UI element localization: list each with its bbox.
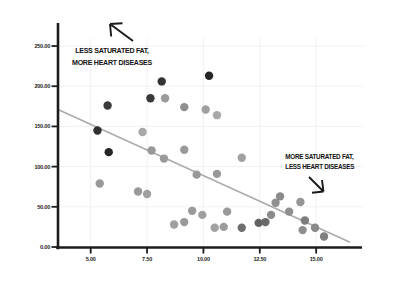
y-tick-label: 50.00 — [20, 204, 50, 210]
scatter-point — [220, 223, 228, 231]
annotation-less-fat: LESS SATURATED FAT, MORE HEART DISEASES — [70, 45, 154, 68]
y-tick-label: 200.00 — [20, 83, 50, 89]
scatter-point — [170, 220, 178, 228]
scatter-point — [213, 170, 221, 178]
scatter-point — [161, 94, 169, 102]
plot-area — [0, 0, 395, 286]
scatter-chart: 0.0050.00100.00150.00200.00250.005.007.5… — [0, 0, 395, 286]
scatter-point — [96, 179, 104, 187]
scatter-point — [201, 105, 209, 113]
annotation-less-fat-line2: MORE HEART DISEASES — [70, 57, 154, 69]
y-tick-label: 250.00 — [20, 43, 50, 49]
scatter-point — [146, 94, 154, 102]
x-tick-label: 5.00 — [77, 256, 105, 262]
scatter-point — [238, 154, 246, 162]
x-tick-label: 10.00 — [189, 256, 217, 262]
annotation-more-fat-line2: LESS HEART DISEASES — [285, 162, 348, 172]
scatter-point — [103, 101, 111, 109]
annotation-less-fat-line1: LESS SATURATED FAT, — [70, 45, 154, 57]
y-tick-label: 150.00 — [20, 123, 50, 129]
scatter-point — [134, 187, 142, 195]
scatter-point — [311, 224, 319, 232]
scatter-point — [261, 218, 269, 226]
x-tick-label: 7.50 — [133, 256, 161, 262]
scatter-point — [267, 211, 275, 219]
scatter-point — [298, 226, 306, 234]
scatter-point — [205, 72, 213, 80]
scatter-point — [238, 224, 246, 232]
scatter-point — [192, 170, 200, 178]
scatter-point — [180, 103, 188, 111]
y-tick-label: 0.00 — [20, 244, 50, 250]
scatter-point — [160, 154, 168, 162]
arrow-up-left-icon — [110, 23, 133, 41]
scatter-point — [143, 190, 151, 198]
scatter-point — [223, 207, 231, 215]
scatter-point — [147, 146, 155, 154]
scatter-point — [105, 148, 113, 156]
scatter-point — [158, 77, 166, 85]
y-tick-label: 100.00 — [20, 164, 50, 170]
scatter-point — [180, 146, 188, 154]
scatter-point — [211, 224, 219, 232]
scatter-point — [198, 211, 206, 219]
scatter-point — [296, 198, 304, 206]
scatter-point — [180, 218, 188, 226]
annotation-more-fat-line1: MORE SATURATED FAT, — [285, 152, 348, 162]
scatter-point — [213, 111, 221, 119]
scatter-point — [93, 126, 101, 134]
x-tick-label: 12.50 — [246, 256, 274, 262]
scatter-point — [188, 207, 196, 215]
annotation-more-fat: MORE SATURATED FAT, LESS HEART DISEASES — [285, 152, 348, 171]
scatter-point — [320, 232, 328, 240]
scatter-point — [301, 216, 309, 224]
x-tick-label: 15.00 — [302, 256, 330, 262]
scatter-point — [276, 192, 284, 200]
scatter-point — [285, 207, 293, 215]
scatter-point — [138, 128, 146, 136]
